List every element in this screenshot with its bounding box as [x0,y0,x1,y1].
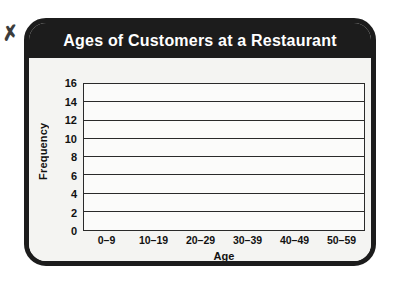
y-axis-tick-label: 12 [51,115,77,126]
x-axis-tick-label: 20–29 [177,234,224,246]
y-axis-tick-label: 2 [51,207,77,218]
x-axis-tick-labels: 0–910–1920–2930–3940–4950–59 [83,234,365,246]
chart-title-bar: Ages of Customers at a Restaurant [29,23,371,58]
y-axis-tick-label: 10 [51,133,77,144]
y-axis-title: Frequency [35,106,51,196]
chart-body: Frequency 0246810121416 0–910–1920–2930–… [29,58,371,261]
y-axis-tick-labels: 0246810121416 [51,83,77,231]
x-axis-title: Age [83,250,365,262]
chart-title: Ages of Customers at a Restaurant [63,32,336,50]
y-axis-tick-label: 14 [51,96,77,107]
page-ink-mark: ✗ [1,21,18,45]
x-axis-tick-label: 0–9 [83,234,130,246]
y-axis-tick-label: 4 [51,189,77,200]
bar-series [84,84,364,230]
plot-area [83,83,365,231]
y-axis-tick-label: 16 [51,78,77,89]
y-axis-tick-label: 8 [51,152,77,163]
x-axis-tick-label: 40–49 [271,234,318,246]
y-axis-tick-label: 0 [51,226,77,237]
x-axis-tick-label: 30–39 [224,234,271,246]
y-axis-tick-label: 6 [51,170,77,181]
chart-card: Ages of Customers at a Restaurant Freque… [24,18,376,266]
x-axis-tick-label: 50–59 [318,234,365,246]
x-axis-tick-label: 10–19 [130,234,177,246]
